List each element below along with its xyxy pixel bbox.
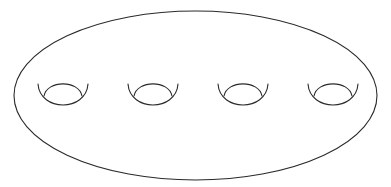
background <box>0 0 391 187</box>
genus-surface-diagram <box>0 0 391 187</box>
